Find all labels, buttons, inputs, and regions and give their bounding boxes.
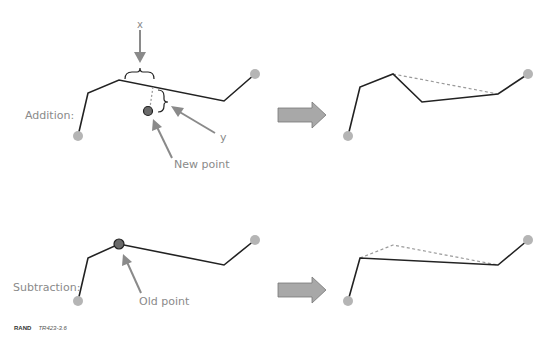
x-label: x <box>137 19 143 30</box>
subtraction-after <box>343 235 533 306</box>
polyline-original <box>78 74 255 136</box>
polyline-result <box>348 74 528 136</box>
addition-after <box>343 69 533 141</box>
old-point-label: Old point <box>139 295 190 308</box>
addition-label: Addition: <box>25 109 74 122</box>
endpoint-end <box>250 69 260 79</box>
subtraction-before: Old point Subtraction: <box>13 235 260 308</box>
footer: RAND TR423-3.6 <box>14 315 67 334</box>
endpoint-start <box>73 131 83 141</box>
y-arrow-shaft <box>178 111 215 133</box>
endpoint-end <box>523 69 533 79</box>
perpendicular-dashed <box>150 87 153 107</box>
endpoint-start <box>73 296 83 306</box>
y-label: y <box>220 131 227 144</box>
new-point-arrow-shaft <box>157 127 172 158</box>
polyline-original <box>78 240 255 301</box>
footer-id: TR423-3.6 <box>38 325 67 331</box>
endpoint-end <box>523 235 533 245</box>
new-point-label: New point <box>174 158 230 171</box>
footer-org: RAND <box>14 325 32 331</box>
endpoint-start <box>343 296 353 306</box>
x-arrow-head <box>134 52 146 63</box>
removed-segment-dashed <box>393 74 498 94</box>
y-brace <box>158 90 168 112</box>
x-brace <box>125 68 154 79</box>
subtraction-label: Subtraction: <box>13 281 80 294</box>
old-point-marker <box>114 239 124 249</box>
addition-before: x y New point Addition: <box>25 19 260 171</box>
old-point-arrow-shaft <box>127 262 141 293</box>
new-point-marker <box>144 107 153 116</box>
endpoint-end <box>250 235 260 245</box>
y-arrow-head <box>171 106 184 117</box>
endpoint-start <box>343 131 353 141</box>
transition-arrow-icon <box>278 102 326 128</box>
figure-canvas: x y New point Addition: Old point Subtra… <box>0 0 552 344</box>
transition-arrow-icon <box>278 277 326 303</box>
polyline-result <box>348 240 528 301</box>
